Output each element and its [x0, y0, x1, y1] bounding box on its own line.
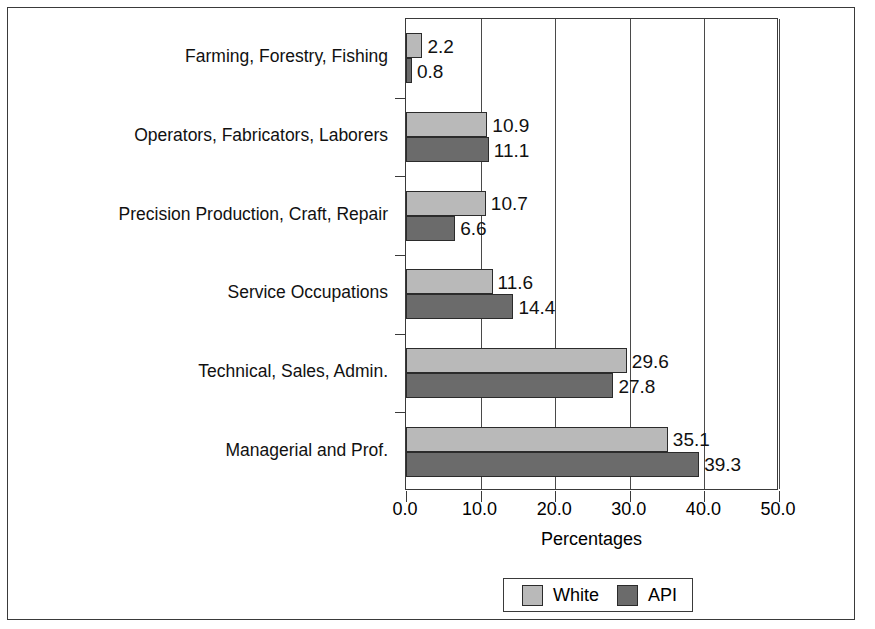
category-label: Precision Production, Craft, Repair [119, 206, 388, 224]
legend-label: API [648, 586, 677, 604]
bar-value-label: 35.1 [673, 430, 710, 449]
bar-value-label: 14.4 [518, 298, 555, 317]
bar-value-label: 6.6 [460, 219, 486, 238]
legend-label: White [553, 586, 599, 604]
bar-white [406, 269, 493, 294]
x-axis-tick-label: 50.0 [760, 500, 795, 518]
bar-white [406, 33, 422, 58]
bar-white [406, 348, 627, 373]
bar-api [406, 452, 699, 477]
category-label: Managerial and Prof. [226, 442, 388, 460]
bar-api [406, 58, 412, 83]
category-axis-tick [395, 334, 406, 335]
legend-entry: White [522, 579, 599, 611]
gridline-vertical [704, 19, 705, 489]
bar-value-label: 29.6 [632, 352, 669, 371]
bar-value-label: 11.6 [498, 273, 534, 292]
bar-white [406, 427, 668, 452]
bar-api [406, 137, 489, 162]
category-label: Farming, Forestry, Fishing [185, 48, 388, 66]
x-axis-tick-label: 10.0 [462, 500, 497, 518]
x-axis-tick-label: 30.0 [611, 500, 646, 518]
bar-value-label: 10.7 [491, 194, 528, 213]
bar-value-label: 10.9 [492, 116, 529, 135]
bar-value-label: 2.2 [427, 37, 453, 56]
bar-value-label: 0.8 [417, 62, 443, 81]
legend-entry: API [617, 579, 677, 611]
bar-api [406, 373, 613, 398]
bar-value-label: 11.1 [494, 141, 530, 160]
category-axis-tick [395, 176, 406, 177]
gridline-vertical [779, 19, 780, 489]
bar-white [406, 191, 486, 216]
bar-value-label: 39.3 [704, 455, 741, 474]
plot-area: 2.20.810.911.110.76.611.614.429.627.835.… [405, 18, 778, 490]
category-axis-tick [395, 98, 406, 99]
bar-chart-figure: Farming, Forestry, FishingOperators, Fab… [0, 0, 875, 629]
bar-white [406, 112, 487, 137]
gridline-vertical [630, 19, 631, 489]
gridline-vertical [481, 19, 482, 489]
bar-api [406, 294, 513, 319]
bar-api [406, 216, 455, 241]
x-axis-tick-label: 0.0 [392, 500, 417, 518]
legend-swatch-white [522, 585, 543, 606]
category-axis-tick [395, 255, 406, 256]
category-label: Technical, Sales, Admin. [198, 363, 388, 381]
bar-value-label: 27.8 [618, 377, 655, 396]
category-label: Service Occupations [228, 284, 389, 302]
legend-swatch-api [617, 585, 638, 606]
category-label: Operators, Fabricators, Laborers [134, 127, 388, 145]
category-axis-labels: Farming, Forestry, FishingOperators, Fab… [10, 18, 398, 490]
x-axis-tick-label: 20.0 [537, 500, 572, 518]
x-axis-title: Percentages [405, 530, 778, 548]
x-axis-tick-label: 40.0 [686, 500, 721, 518]
category-axis-tick [395, 412, 406, 413]
gridline-vertical [555, 19, 556, 489]
chart-legend: WhiteAPI [503, 578, 693, 612]
x-axis-tick-labels: 0.010.020.030.040.050.0 [405, 500, 778, 526]
